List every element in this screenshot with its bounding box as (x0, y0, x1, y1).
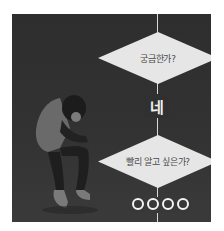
circle-icon (177, 198, 189, 210)
decision-label: 궁금한가? (98, 32, 211, 84)
decision-label: 빨리 알고 싶은가? (98, 135, 211, 188)
circle-icon (147, 198, 159, 210)
decision-diamond-want-to-know-fast: 빨리 알고 싶은가? (98, 135, 211, 188)
circle-icon (162, 198, 174, 210)
decision-diamond-curious: 궁금한가? (98, 32, 211, 84)
answer-circles (130, 197, 191, 213)
answer-yes: 네 (145, 94, 169, 118)
illustration-panel: 궁금한가? 네 빨리 알고 싶은가? (12, 14, 211, 222)
crouching-person-figure (30, 90, 102, 220)
circle-icon (132, 198, 144, 210)
